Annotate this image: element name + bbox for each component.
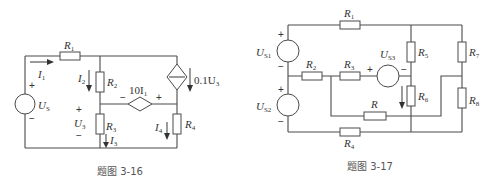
circuit-diagrams: R1 R2 R3 R4 + − US I1 I2 + U3 − I3 [0, 0, 489, 187]
plus-us1: + [278, 29, 284, 40]
arrow-head-i1 [47, 59, 54, 65]
plus-u3: + [76, 104, 82, 115]
label-us2: US2 [256, 100, 272, 114]
resistor-r8 [458, 88, 466, 108]
minus-us2: − [278, 116, 284, 127]
resistor-r4 [173, 114, 181, 134]
label-r1: R1 [63, 39, 75, 53]
resistor-r7 [458, 42, 466, 62]
label-r4: R4 [343, 137, 355, 151]
ccvs-diamond [128, 97, 152, 111]
caption-3-16: 题图 3-16 [97, 166, 143, 177]
resistor-r5 [407, 42, 415, 62]
arrow-head-vccs [187, 85, 193, 92]
label-vccs: 0.1U3 [194, 74, 220, 88]
resistor-r [364, 112, 386, 120]
label-r3: R3 [105, 120, 117, 134]
resistor-r3 [340, 72, 360, 80]
label-us1: US1 [256, 46, 272, 60]
label-i3: I3 [109, 134, 118, 148]
caption-3-17: 题图 3-17 [347, 161, 393, 172]
minus-ccvs: − [120, 92, 126, 103]
label-r3: R3 [343, 58, 355, 72]
arrow-head-i4 [164, 133, 170, 140]
resistor-r4 [340, 128, 360, 136]
plus-us: + [29, 80, 35, 91]
minus-us3: − [401, 64, 407, 75]
plus-ccvs: + [156, 92, 162, 103]
label-ccvs: 10I1 [129, 84, 148, 98]
arrow-head-i3 [103, 142, 109, 148]
minus-u3: − [76, 130, 82, 141]
label-r2: R2 [106, 76, 118, 90]
arrow-head-current [399, 102, 405, 109]
label-r5: R5 [417, 46, 429, 60]
voltage-source-us1 [277, 40, 299, 62]
label-r2: R2 [305, 58, 317, 72]
plus-us3: + [367, 64, 373, 75]
resistor-r1 [340, 21, 360, 29]
label-r4: R4 [184, 118, 196, 132]
label-r6: R6 [417, 90, 429, 104]
label-us: US [38, 99, 50, 113]
minus-us1: − [278, 61, 284, 72]
minus-us: − [29, 113, 35, 124]
label-i1: I1 [37, 68, 46, 82]
arrow-head-i2 [86, 85, 92, 92]
plus-us2: + [278, 84, 284, 95]
label-us3: US3 [380, 48, 396, 62]
figure-3-17: R1 R2 R3 R4 R R5 R6 R7 R8 + − US1 + − [256, 7, 480, 172]
voltage-source-us [15, 94, 35, 114]
label-u3: U3 [74, 117, 86, 131]
label-r1: R1 [343, 7, 355, 21]
label-r8: R8 [468, 94, 480, 108]
resistor-r3 [96, 114, 104, 134]
voltage-source-us3 [377, 65, 399, 87]
resistor-r2 [96, 72, 104, 92]
label-i2: I2 [77, 72, 86, 86]
label-r7: R7 [468, 46, 480, 60]
resistor-r1 [60, 52, 80, 60]
resistor-r6 [407, 86, 415, 106]
label-r: R [370, 98, 378, 110]
voltage-source-us2 [277, 94, 299, 116]
resistor-r2 [302, 72, 322, 80]
figure-3-16: R1 R2 R3 R4 + − US I1 I2 + U3 − I3 [15, 39, 220, 177]
label-i4: I4 [154, 121, 163, 135]
